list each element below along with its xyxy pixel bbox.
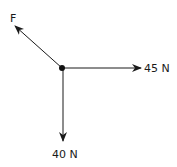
point-mass xyxy=(59,65,65,71)
label-40n: 40 N xyxy=(52,148,78,161)
force-arrow-f xyxy=(15,26,62,68)
label-f: F xyxy=(10,12,16,25)
label-45n: 45 N xyxy=(144,62,170,75)
free-body-diagram: F 45 N 40 N xyxy=(0,0,177,167)
